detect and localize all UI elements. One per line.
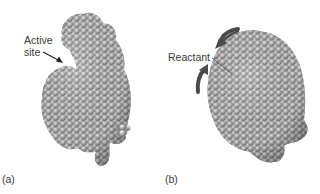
active-site-label-line2: site	[24, 46, 53, 58]
enzyme-closed-model	[160, 0, 320, 194]
panel-a: Active site (a)	[0, 0, 160, 194]
curved-arrow-up-icon	[198, 64, 208, 92]
panel-b: Reactant (b)	[160, 0, 320, 194]
panel-b-letter: (b)	[165, 173, 178, 185]
reactant-label: Reactant	[168, 51, 210, 63]
enzyme-open-model	[0, 0, 160, 194]
active-site-label-line1: Active	[24, 34, 53, 46]
active-site-label: Active site	[24, 34, 53, 58]
panel-a-letter: (a)	[2, 173, 15, 185]
